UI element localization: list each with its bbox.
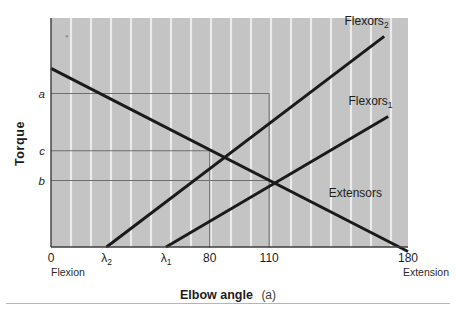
y-tick-label-c: c	[39, 145, 45, 157]
y-axis-title: Torque	[13, 121, 27, 166]
x-tick-label-text: 110	[260, 251, 279, 265]
y-axis-tick-labels: acb	[39, 88, 46, 187]
plot-area-background	[51, 18, 408, 247]
x-tick-label-text: 0	[48, 251, 55, 265]
series-label-text: Extensors	[329, 186, 382, 200]
x-tick-label-lambda2: λ2	[101, 251, 112, 267]
scan-speck-artifact	[66, 35, 69, 38]
x-axis-title-paren: (a)	[261, 288, 276, 302]
torque-elbow-angle-chart: 0λ2λ180110180 acb ExtensorsFlexors1Flexo…	[0, 0, 456, 317]
y-tick-label-a: a	[39, 88, 45, 100]
x-tick-label-110: 110	[260, 251, 279, 265]
x-tick-label-subscript: 1	[167, 257, 172, 267]
series-label-subscript: 1	[388, 100, 393, 110]
series-label-subscript: 2	[384, 20, 389, 30]
series-label-text: Flexors	[345, 14, 384, 28]
series-label-flexors1: Flexors1	[349, 94, 393, 110]
x-tick-label-subscript: 2	[107, 257, 112, 267]
x-axis-title-main: Elbow angle	[180, 288, 253, 302]
y-tick-label-b: b	[39, 175, 46, 187]
x-tick-label-text: 180	[398, 251, 418, 265]
x-tick-label-lambda1: λ1	[161, 251, 172, 267]
x-tick-label-180: 180	[398, 251, 418, 265]
x-axis-left-end-label: Flexion	[51, 266, 85, 278]
figure-container: 0λ2λ180110180 acb ExtensorsFlexors1Flexo…	[0, 0, 456, 317]
x-tick-label-80: 80	[203, 251, 217, 265]
x-axis-tick-labels: 0λ2λ180110180	[48, 251, 419, 267]
bottom-divider-rule	[6, 303, 450, 304]
series-label-extensors: Extensors	[329, 186, 382, 200]
x-axis-title: Elbow angle (a)	[180, 288, 276, 302]
x-axis-right-end-label: Extension	[403, 266, 449, 278]
x-tick-label-text: 80	[203, 251, 217, 265]
x-tick-label-0: 0	[48, 251, 55, 265]
series-label-flexors2: Flexors2	[345, 14, 389, 30]
series-label-text: Flexors	[349, 94, 388, 108]
